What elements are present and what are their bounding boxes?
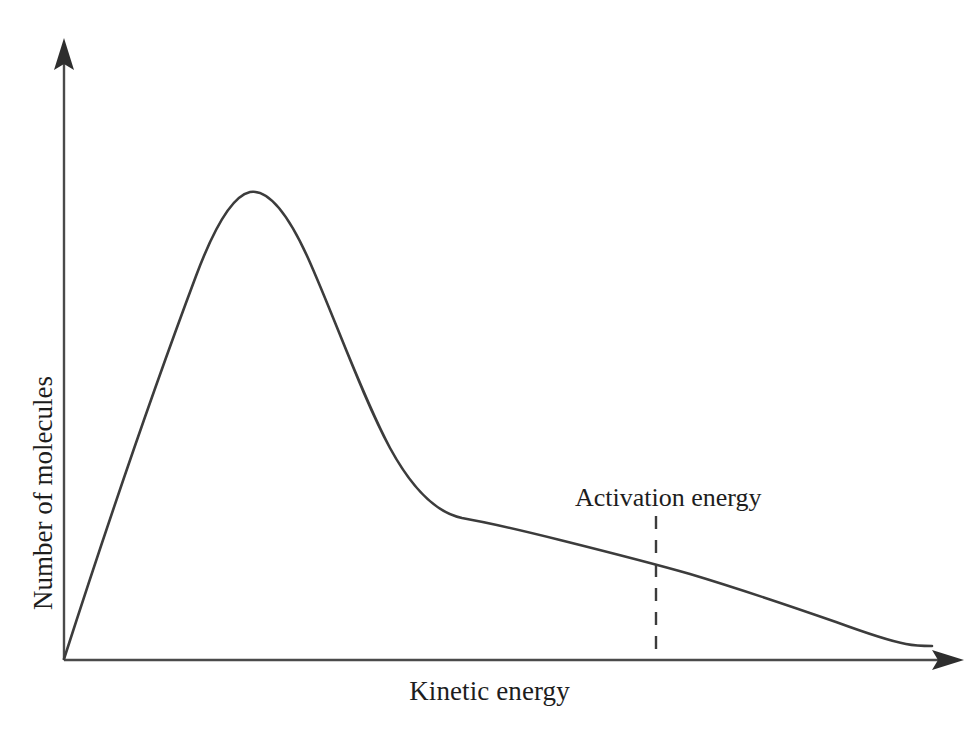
y-axis-label: Number of molecules <box>28 376 59 610</box>
distribution-curve <box>64 192 932 659</box>
maxwell-boltzmann-figure: Figure Number of molecules Kinetic energ… <box>0 0 979 736</box>
distribution-plot <box>0 0 979 736</box>
x-axis-label: Kinetic energy <box>0 676 979 707</box>
activation-energy-label: Activation energy <box>575 483 762 513</box>
